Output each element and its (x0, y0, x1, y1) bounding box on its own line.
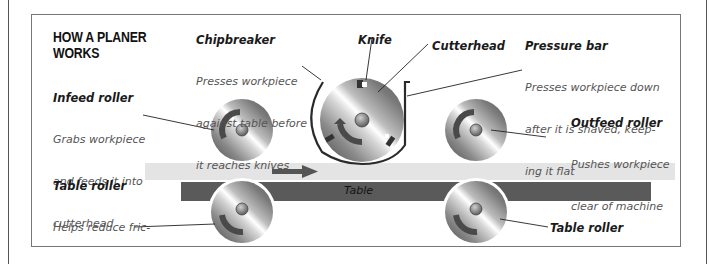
chipbreaker-label: Chipbreaker (196, 33, 275, 47)
table-label: Table (344, 184, 373, 198)
table-roller-left-desc: Helps reduce fric- tion between work- pi… (53, 193, 159, 264)
table-roller-left (208, 178, 276, 246)
outfeed-roller (445, 99, 507, 161)
title-line-1: HOW A PLANER (53, 29, 146, 45)
knife-label: Knife (358, 33, 392, 47)
pressure-bar-label: Pressure bar (525, 39, 608, 53)
table-roller-left-label: Table roller (53, 179, 126, 193)
infeed-roller-label: Infeed roller (53, 91, 133, 105)
outfeed-roller-desc: Pushes workpiece clear of machine (571, 130, 670, 228)
outfeed-roller-label: Outfeed roller (571, 116, 662, 130)
diagram-title: HOW A PLANER WORKS (53, 29, 146, 61)
table-roller-right-label: Table roller (550, 221, 623, 235)
cutterhead-label: Cutterhead (432, 39, 505, 53)
title-line-2: WORKS (53, 45, 146, 61)
chipbreaker-desc: Presses workpiece against table before i… (196, 47, 307, 187)
cutterhead (320, 78, 404, 162)
table-roller-right (442, 178, 510, 246)
